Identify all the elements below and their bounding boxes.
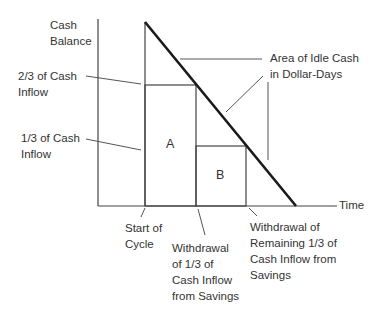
first-withdrawal-label: Withdrawal of 1/3 of Cash Inflow from Sa… [172,240,239,304]
y-axis-label: Cash Balance [50,17,92,49]
start-of-cycle-label: Start of Cycle [125,220,162,252]
start-pointer [141,208,145,217]
two-thirds-label: 2/3 of Cash Inflow [18,68,77,100]
idle-cash-label: Area of Idle Cash in Dollar-Days [270,50,359,82]
two-thirds-pointer [86,76,141,84]
one-third-label: 1/3 of Cash Inflow [21,130,80,162]
second-withdrawal-pointer [249,208,257,216]
second-withdrawal-label: Withdrawal of Remaining 1/3 of Cash Infl… [250,219,337,283]
first-withdrawal-pointer [198,209,205,235]
idle-cash-pointer [226,76,263,112]
region-a-label: A [166,136,174,152]
one-third-pointer [86,139,141,150]
region-b-label: B [216,167,224,183]
x-axis-label: Time [339,197,364,213]
